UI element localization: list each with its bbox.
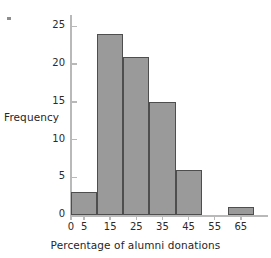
x-tick-55 <box>214 216 216 220</box>
y-tick-label-15: 15 <box>41 95 65 106</box>
histogram-bar <box>228 207 254 215</box>
histogram-bar <box>176 170 202 215</box>
x-tick-5 <box>83 216 85 220</box>
y-tick-label-5: 5 <box>41 170 65 181</box>
x-tick-0 <box>70 216 72 220</box>
x-tick-65 <box>240 216 242 220</box>
x-tick-15 <box>109 216 111 220</box>
x-axis-title: Percentage of alumni donations <box>0 239 271 251</box>
x-tick-35 <box>162 216 164 220</box>
x-tick-25 <box>136 216 138 220</box>
histogram-figure: Frequency 0510152025 05152535455565 Perc… <box>0 0 271 258</box>
histogram-bar <box>149 102 175 215</box>
y-tick-label-20: 20 <box>41 57 65 68</box>
y-tick-label-25: 25 <box>41 19 65 30</box>
y-axis-title: Frequency <box>4 111 59 123</box>
corner-artifact-mark <box>7 17 11 20</box>
y-tick-label-10: 10 <box>41 133 65 144</box>
y-tick-label-0: 0 <box>41 208 65 219</box>
x-tick-45 <box>188 216 190 220</box>
histogram-bar <box>123 57 149 215</box>
x-tick-label-65: 65 <box>226 221 256 232</box>
histogram-bar <box>71 192 97 215</box>
histogram-bar <box>97 34 123 215</box>
